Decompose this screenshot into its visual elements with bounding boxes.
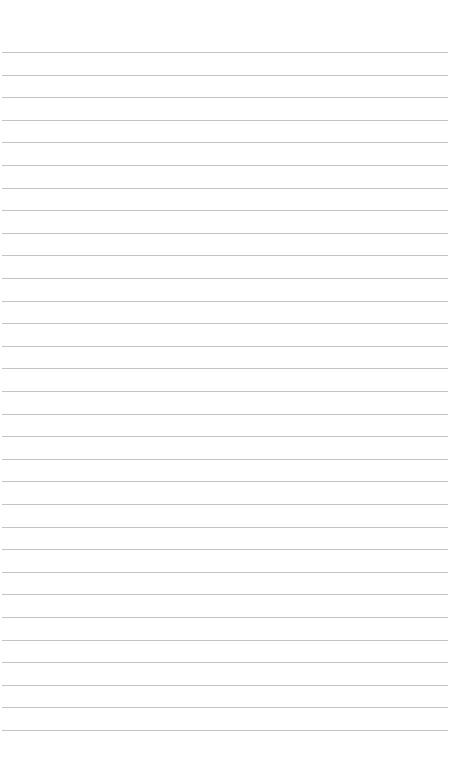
ruled-line [2, 527, 448, 528]
ruled-line [2, 368, 448, 369]
ruled-line [2, 459, 448, 460]
ruled-line [2, 97, 448, 98]
ruled-line [2, 730, 448, 731]
ruled-line [2, 75, 448, 76]
ruled-line [2, 481, 448, 482]
ruled-line [2, 707, 448, 708]
ruled-line [2, 278, 448, 279]
ruled-line [2, 414, 448, 415]
ruled-line [2, 504, 448, 505]
ruled-line [2, 391, 448, 392]
ruled-line [2, 662, 448, 663]
ruled-line [2, 188, 448, 189]
ruled-line [2, 594, 448, 595]
ruled-line [2, 233, 448, 234]
lined-paper-page [0, 0, 450, 782]
ruled-line [2, 572, 448, 573]
ruled-line [2, 640, 448, 641]
ruled-line [2, 685, 448, 686]
ruled-line [2, 436, 448, 437]
ruled-line [2, 120, 448, 121]
ruled-line [2, 52, 448, 53]
ruled-line [2, 549, 448, 550]
ruled-line [2, 255, 448, 256]
ruled-line [2, 142, 448, 143]
ruled-line [2, 301, 448, 302]
ruled-line [2, 210, 448, 211]
ruled-line [2, 165, 448, 166]
ruled-line [2, 346, 448, 347]
ruled-line [2, 323, 448, 324]
ruled-line [2, 617, 448, 618]
